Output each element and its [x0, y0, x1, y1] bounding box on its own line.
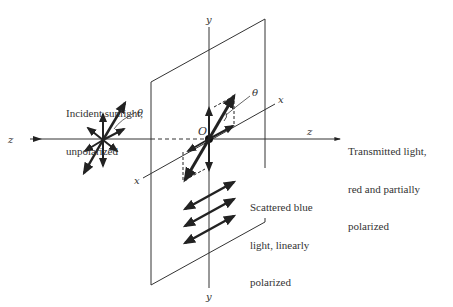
- incident-light-caption: Incident sunlight, unpolarized: [66, 82, 143, 170]
- transmitted-caption-line-3: polarized: [348, 220, 426, 233]
- transmitted-light-caption: Transmitted light, red and partially pol…: [348, 120, 426, 245]
- scattered-caption-line-3: polarized: [250, 276, 313, 289]
- transmitted-caption-line-1: Transmitted light,: [348, 145, 426, 158]
- axis-y-top-label: y: [205, 14, 212, 25]
- dipole-vectors: [183, 96, 250, 180]
- axis-z-right-label: z: [306, 126, 313, 137]
- scattered-light-caption: Scattered blue light, linearly polarized: [250, 176, 313, 301]
- theta-right-label: θ: [252, 87, 258, 98]
- incident-caption-line-1: Incident sunlight,: [66, 107, 143, 120]
- axis-y-bottom-label: y: [205, 291, 212, 302]
- axis-x-back-label: x: [278, 94, 284, 105]
- transmitted-caption-line-2: red and partially: [348, 183, 426, 196]
- axis-z-left-label: z: [7, 134, 14, 145]
- scattered-caption-line-1: Scattered blue: [250, 201, 313, 214]
- axis-x-front-label: x: [134, 175, 140, 186]
- incident-caption-line-2: unpolarized: [66, 145, 143, 158]
- origin-label: O: [198, 125, 207, 138]
- scattered-caption-line-2: light, linearly: [250, 239, 313, 252]
